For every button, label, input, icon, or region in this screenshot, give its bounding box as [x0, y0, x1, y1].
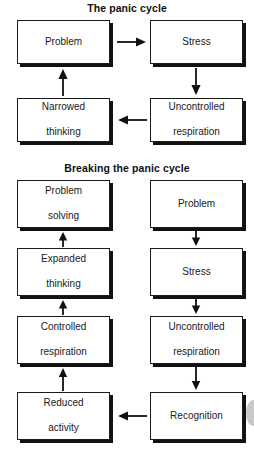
- node-break-problem-solving[interactable]: Problemsolving: [17, 180, 110, 228]
- node-panic-uncontrolled-respiration[interactable]: Uncontrolledrespiration: [150, 98, 243, 142]
- page-edge-artifact: [246, 400, 254, 426]
- arrow-break-reduced-to-controlled: [57, 367, 69, 391]
- node-label-line1: Uncontrolled: [165, 321, 227, 334]
- node-label: Uncontrolledrespiration: [162, 321, 230, 359]
- node-label-line2: respiration: [37, 346, 90, 359]
- node-label-line2: thinking: [39, 126, 88, 139]
- node-label-line1: Uncontrolled: [165, 101, 227, 114]
- node-label: Expandedthinking: [35, 253, 92, 291]
- node-label-line1: Controlled: [37, 321, 90, 334]
- node-break-controlled-respiration[interactable]: Controlledrespiration: [17, 316, 110, 364]
- node-label-line1: Narrowed: [39, 101, 88, 114]
- arrow-panic-narrowed-to-problem: [57, 68, 69, 96]
- node-label-line2: thinking: [38, 278, 89, 291]
- node-break-problem[interactable]: Problem: [150, 180, 243, 228]
- section-title-breaking-panic-cycle: Breaking the panic cycle: [0, 162, 254, 174]
- node-label: Narrowedthinking: [36, 101, 91, 139]
- node-label-line2: solving: [42, 210, 85, 223]
- node-panic-problem[interactable]: Problem: [17, 20, 110, 64]
- arrow-break-recognition-to-reduced: [117, 410, 147, 422]
- node-label-line2: respiration: [165, 346, 227, 359]
- arrow-break-problem-to-stress: [190, 231, 202, 247]
- node-label-line1: Reduced: [40, 397, 86, 410]
- node-label: Problem: [175, 198, 218, 211]
- node-label: Uncontrolledrespiration: [162, 101, 230, 139]
- arrow-panic-stress-to-uncontrolled: [190, 68, 202, 96]
- node-panic-stress[interactable]: Stress: [150, 20, 243, 64]
- arrow-break-uncontrolled-to-recognition: [190, 367, 202, 391]
- arrow-break-controlled-to-expanded: [57, 299, 69, 315]
- node-label-line1: Problem: [42, 185, 85, 198]
- section-title-panic-cycle: The panic cycle: [0, 2, 254, 14]
- node-break-uncontrolled-respiration[interactable]: Uncontrolledrespiration: [150, 316, 243, 364]
- node-panic-narrowed-thinking[interactable]: Narrowedthinking: [17, 98, 110, 142]
- node-label: Recognition: [167, 410, 226, 423]
- node-break-stress[interactable]: Stress: [150, 248, 243, 296]
- node-label: Stress: [179, 36, 213, 49]
- node-label: Problem: [42, 36, 85, 49]
- arrow-break-expanded-to-problem-solving: [57, 231, 69, 247]
- node-label-line2: activity: [40, 422, 86, 435]
- node-break-recognition[interactable]: Recognition: [150, 392, 243, 440]
- node-label: Reducedactivity: [37, 397, 89, 435]
- node-label-line1: Expanded: [38, 253, 89, 266]
- node-label: Stress: [179, 266, 213, 279]
- node-break-reduced-activity[interactable]: Reducedactivity: [17, 392, 110, 440]
- arrow-break-stress-to-uncontrolled: [190, 299, 202, 315]
- panic-cycle-figure: The panic cycle Problem Stress Uncontrol…: [0, 0, 254, 450]
- node-label-line2: respiration: [165, 126, 227, 139]
- node-break-expanded-thinking[interactable]: Expandedthinking: [17, 248, 110, 296]
- node-label: Problemsolving: [39, 185, 88, 223]
- arrow-panic-problem-to-stress: [117, 36, 147, 48]
- arrow-panic-uncontrolled-to-narrowed: [117, 114, 147, 126]
- node-label: Controlledrespiration: [34, 321, 93, 359]
